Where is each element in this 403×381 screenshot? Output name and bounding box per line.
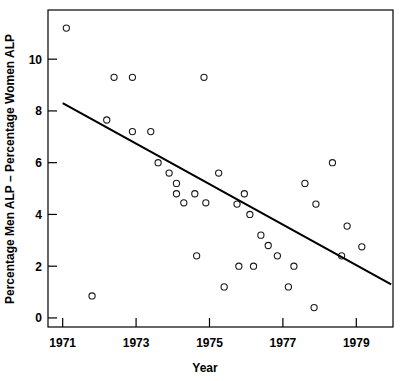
y-tick-label: 8	[35, 104, 42, 118]
scatter-plot-figure: 0246810 19711973197519771979 Year Percen…	[0, 0, 403, 381]
y-tick-label: 4	[35, 208, 42, 222]
x-axis-title: Year	[192, 361, 218, 375]
figure-background	[0, 0, 403, 381]
x-tick-label: 1973	[123, 336, 150, 350]
x-tick-label: 1979	[343, 336, 370, 350]
y-tick-label: 6	[35, 156, 42, 170]
y-tick-label: 2	[35, 260, 42, 274]
x-tick-label: 1977	[270, 336, 297, 350]
y-axis-title: Percentage Men ALP – Percentage Women AL…	[3, 34, 17, 304]
y-tick-label: 10	[29, 53, 43, 67]
y-tick-label: 0	[35, 311, 42, 325]
x-tick-label: 1971	[49, 336, 76, 350]
plot-canvas: 0246810 19711973197519771979 Year Percen…	[0, 0, 403, 381]
x-tick-label: 1975	[196, 336, 223, 350]
